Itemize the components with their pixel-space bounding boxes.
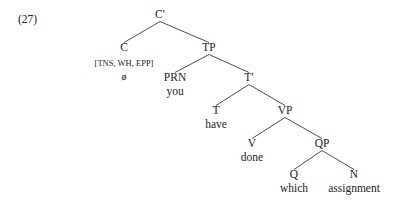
syntax-tree-figure: (27) C′C[TNS, WH, EPP]øTPPRNyouT′ThaveVP… — [0, 0, 398, 212]
tree-node-v: Vdone — [241, 137, 263, 163]
tree-branch — [294, 151, 322, 170]
tree-node-tbar: T′ — [244, 71, 254, 83]
tree-node-qp: QP — [315, 137, 330, 149]
tree-node-n: Nassignment — [328, 168, 381, 195]
node-terminal-word: assignment — [328, 182, 381, 195]
tree-branch — [252, 118, 285, 139]
node-label: VP — [278, 104, 293, 116]
tree-branch — [322, 151, 354, 170]
node-label: C′ — [155, 8, 165, 20]
node-label: V — [248, 137, 257, 149]
tree-branch — [124, 22, 160, 43]
tree-branch — [160, 22, 209, 43]
tree-node-c: C[TNS, WH, EPP]ø — [95, 41, 154, 82]
tree-branch — [216, 85, 249, 106]
node-terminal-word: which — [280, 182, 308, 194]
syntax-tree-diagram: C′C[TNS, WH, EPP]øTPPRNyouT′ThaveVPVdone… — [0, 0, 398, 212]
node-label: PRN — [164, 71, 187, 83]
node-terminal-word: you — [166, 85, 184, 98]
tree-node-t: Thave — [205, 104, 227, 130]
tree-branch — [209, 55, 249, 73]
node-label: N — [350, 168, 359, 180]
node-terminal-word: have — [205, 118, 227, 130]
node-terminal-word: done — [241, 151, 263, 163]
tree-branch — [249, 85, 285, 106]
node-label: C — [120, 41, 128, 53]
tree-node-prn: PRNyou — [164, 71, 187, 98]
tree-node-layer: C′C[TNS, WH, EPP]øTPPRNyouT′ThaveVPVdone… — [95, 8, 381, 195]
tree-node-cbar: C′ — [155, 8, 165, 20]
node-label: QP — [315, 137, 330, 149]
tree-node-vp: VP — [278, 104, 293, 116]
node-label: Q — [290, 168, 299, 180]
tree-node-tp: TP — [202, 41, 215, 53]
tree-branch — [175, 55, 209, 73]
node-label: TP — [202, 41, 215, 53]
tree-node-q: Qwhich — [280, 168, 308, 194]
node-label: T′ — [244, 71, 254, 83]
node-label: T — [212, 104, 219, 116]
node-feature-bracket: [TNS, WH, EPP] — [95, 58, 154, 68]
node-terminal-word: ø — [122, 71, 127, 82]
tree-branch — [285, 118, 322, 139]
